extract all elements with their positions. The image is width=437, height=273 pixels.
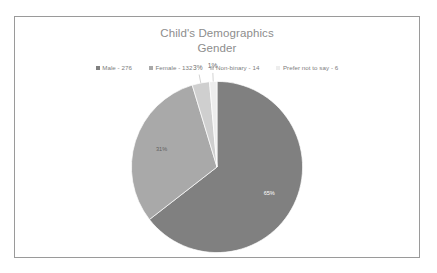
legend-item-female[interactable]: Female - 132 bbox=[149, 64, 193, 71]
leader-line bbox=[199, 75, 201, 83]
pie-label-female: 31% bbox=[156, 146, 167, 152]
pie-chart-area: 65%31%3%1% bbox=[15, 75, 419, 259]
legend-label-prefer-not-to-say: Prefer not to say - 6 bbox=[283, 64, 338, 71]
pie-label-male: 65% bbox=[264, 190, 275, 196]
pie-label-non-binary: 3% bbox=[193, 64, 203, 71]
legend-item-male[interactable]: Male - 276 bbox=[96, 64, 132, 71]
legend-label-non-binary: Non-binary - 14 bbox=[216, 64, 259, 71]
pie-slices bbox=[131, 81, 302, 252]
pie-chart-svg: 65%31%3%1% bbox=[15, 75, 419, 259]
chart-title-line-2: Gender bbox=[15, 41, 419, 56]
chart-title-line-1: Child's Demographics bbox=[15, 26, 419, 41]
legend-label-female: Female - 132 bbox=[155, 64, 192, 71]
chart-title: Child's Demographics Gender bbox=[15, 26, 419, 56]
legend-label-male: Male - 276 bbox=[102, 64, 132, 71]
legend-swatch-male bbox=[96, 66, 100, 70]
chart-frame: Child's Demographics Gender Male - 276 F… bbox=[14, 16, 420, 258]
legend-item-prefer-not-to-say[interactable]: Prefer not to say - 6 bbox=[276, 64, 338, 71]
legend-swatch-female bbox=[149, 66, 153, 70]
pie-label-prefer-not-to-say: 1% bbox=[208, 62, 218, 69]
legend-swatch-prefer-not-to-say bbox=[276, 66, 280, 70]
